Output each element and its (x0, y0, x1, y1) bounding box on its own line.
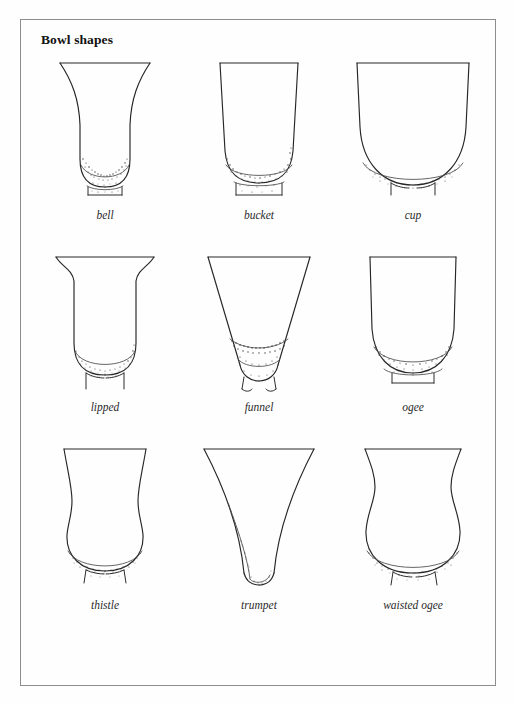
figure-label-waisted-ogee: waisted ogee (336, 599, 490, 611)
figure-label-thistle: thistle (28, 599, 182, 611)
figure-label-trumpet: trumpet (182, 599, 336, 611)
figure-label-funnel: funnel (182, 401, 336, 413)
bell-drawing (46, 55, 164, 207)
figure-label-cup: cup (336, 209, 490, 221)
trumpet-drawing (200, 439, 318, 597)
bucket-drawing (200, 55, 318, 207)
ogee-drawing (354, 247, 472, 399)
waisted-ogee-drawing (349, 439, 477, 597)
figure-label-lipped: lipped (28, 401, 182, 413)
funnel-drawing (200, 247, 318, 399)
figure-ogee: ogee (336, 247, 490, 413)
figure-label-ogee: ogee (336, 401, 490, 413)
trumpet-shading (229, 505, 272, 584)
figure-trumpet: trumpet (182, 439, 336, 611)
figure-waisted-ogee: waisted ogee (336, 439, 490, 611)
lipped-shading (75, 344, 134, 377)
thistle-drawing (46, 439, 164, 597)
figure-thistle: thistle (28, 439, 182, 611)
figure-bucket: bucket (182, 55, 336, 221)
cup-drawing (347, 55, 479, 207)
lipped-drawing (46, 247, 164, 399)
bowl-shape-grid: bell (28, 55, 490, 635)
figure-bell: bell (28, 55, 182, 221)
plate-page: Bowl shapes (0, 0, 514, 704)
thistle-shading (69, 552, 140, 577)
page-title: Bowl shapes (41, 32, 113, 48)
figure-cup: cup (336, 55, 490, 221)
figure-label-bucket: bucket (182, 209, 336, 221)
waisted-ogee-shading (368, 552, 457, 580)
figure-lipped: lipped (28, 247, 182, 413)
figure-label-bell: bell (28, 209, 182, 221)
figure-funnel: funnel (182, 247, 336, 413)
